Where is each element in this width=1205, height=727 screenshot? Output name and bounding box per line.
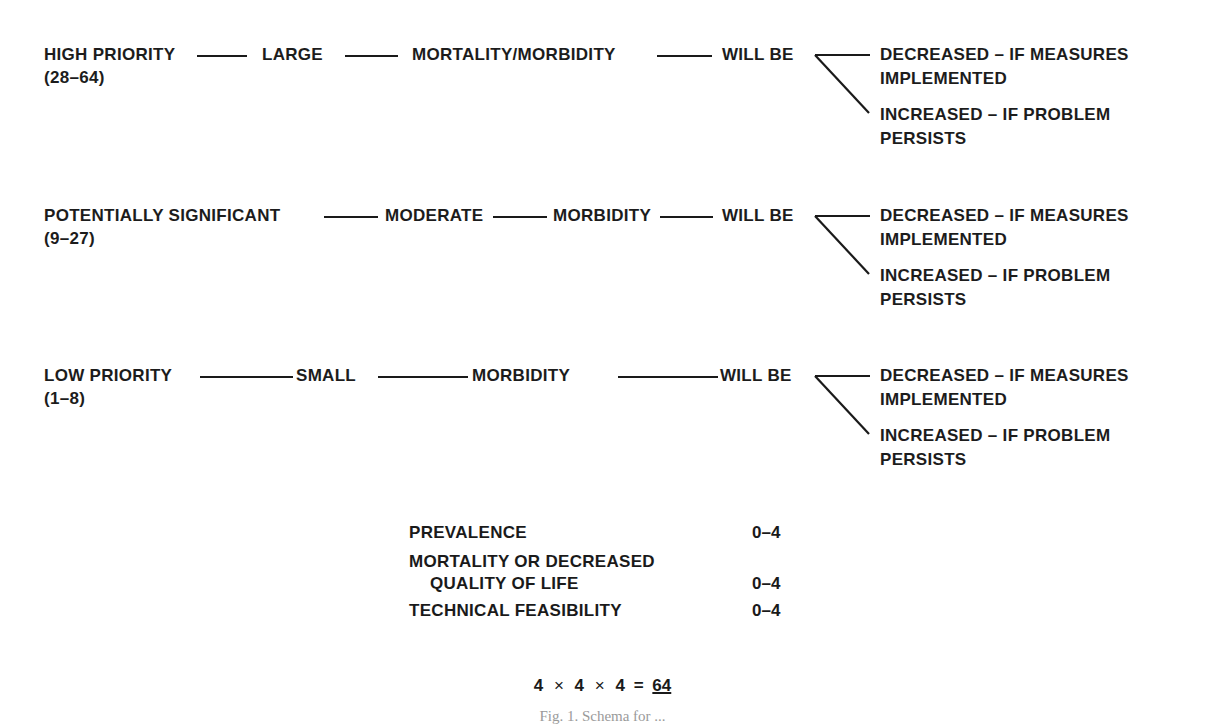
priority-label: HIGH PRIORITY <box>44 45 175 65</box>
priority-range: (28–64) <box>44 68 105 88</box>
will-be-label: WILL BE <box>720 366 792 386</box>
connector-line <box>324 216 378 218</box>
effect-label: MORBIDITY <box>553 206 651 226</box>
outcome-increased-line1: INCREASED – IF PROBLEM <box>880 105 1110 125</box>
priority-range: (9–27) <box>44 229 95 249</box>
magnitude-label: MODERATE <box>385 206 483 226</box>
will-be-label: WILL BE <box>722 206 794 226</box>
score-label-feasibility: TECHNICAL FEASIBILITY <box>409 601 622 621</box>
score-value-prevalence: 0–4 <box>752 523 780 543</box>
effect-label: MORBIDITY <box>472 366 570 386</box>
connector-line <box>618 376 718 378</box>
score-label-mortality: MORTALITY OR DECREASED <box>409 552 655 572</box>
formula-result: 64 <box>652 676 671 695</box>
connector-line <box>197 55 247 57</box>
figure-caption: Fig. 1. Schema for ... <box>0 708 1205 725</box>
formula-factor-b: 4 <box>575 676 584 695</box>
formula-factor-c: 4 <box>615 676 624 695</box>
connector-line <box>345 55 398 57</box>
multiply-icon: × <box>554 676 564 695</box>
score-formula: 4 × 4 × 4 = 64 <box>0 676 1205 696</box>
score-label-prevalence: PREVALENCE <box>409 523 527 543</box>
outcome-decreased-line1: DECREASED – IF MEASURES <box>880 45 1129 65</box>
outcome-increased-line1: INCREASED – IF PROBLEM <box>880 266 1110 286</box>
priority-label: POTENTIALLY SIGNIFICANT <box>44 206 280 226</box>
connector-line <box>660 216 713 218</box>
outcome-decreased-line2: IMPLEMENTED <box>880 69 1007 89</box>
outcome-increased-line2: PERSISTS <box>880 290 966 310</box>
outcome-decreased-line1: DECREASED – IF MEASURES <box>880 366 1129 386</box>
priority-label: LOW PRIORITY <box>44 366 172 386</box>
outcome-increased-line1: INCREASED – IF PROBLEM <box>880 426 1110 446</box>
score-label-mortality-line2: QUALITY OF LIFE <box>430 574 579 594</box>
outcome-increased-line2: PERSISTS <box>880 450 966 470</box>
outcome-increased-line2: PERSISTS <box>880 129 966 149</box>
formula-factor-a: 4 <box>534 676 543 695</box>
equals-sign: = <box>634 676 644 695</box>
outcome-decreased-line2: IMPLEMENTED <box>880 230 1007 250</box>
effect-label: MORTALITY/MORBIDITY <box>412 45 616 65</box>
branch-fork-icon <box>812 211 874 277</box>
multiply-icon: × <box>595 676 605 695</box>
connector-line <box>657 55 712 57</box>
priority-range: (1–8) <box>44 389 85 409</box>
connector-line <box>493 216 547 218</box>
will-be-label: WILL BE <box>722 45 794 65</box>
magnitude-label: LARGE <box>262 45 323 65</box>
connector-line <box>378 376 468 378</box>
score-value-mortality: 0–4 <box>752 574 780 594</box>
outcome-decreased-line2: IMPLEMENTED <box>880 390 1007 410</box>
branch-fork-icon <box>812 371 874 437</box>
score-value-feasibility: 0–4 <box>752 601 780 621</box>
branch-fork-icon <box>812 50 874 116</box>
outcome-decreased-line1: DECREASED – IF MEASURES <box>880 206 1129 226</box>
connector-line <box>200 376 293 378</box>
magnitude-label: SMALL <box>296 366 356 386</box>
